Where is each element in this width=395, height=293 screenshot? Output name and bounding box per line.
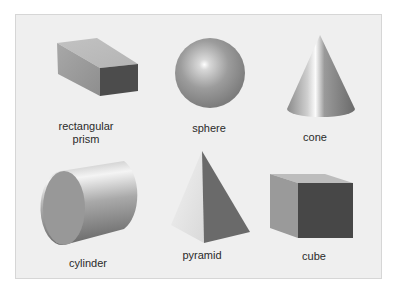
rectangular-prism-label-line1: rectangular [58, 120, 113, 133]
cube-shape [270, 174, 353, 238]
rectangular-prism-shape [57, 38, 138, 96]
sphere-label: sphere [192, 122, 226, 135]
rectangular-prism-label-line2: prism [58, 133, 113, 146]
pyramid-shape [171, 151, 250, 243]
rectangular-prism-label: rectangular prism [58, 120, 113, 146]
cone-label: cone [303, 131, 327, 144]
cube-label: cube [302, 250, 326, 263]
cone-shape [287, 35, 355, 117]
cylinder-label: cylinder [69, 257, 107, 270]
cylinder-shape [40, 161, 137, 245]
sphere-shape [175, 38, 245, 108]
pyramid-label: pyramid [182, 249, 221, 262]
